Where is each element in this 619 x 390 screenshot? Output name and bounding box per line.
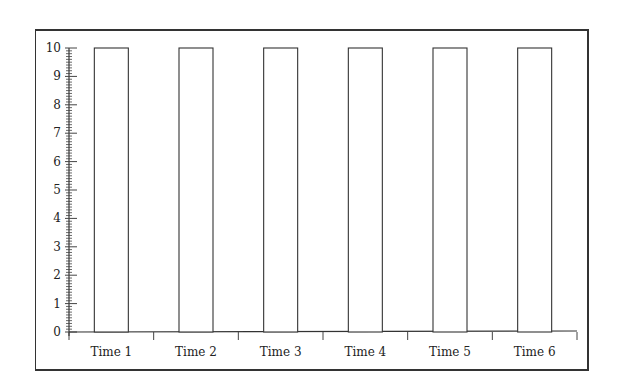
bars <box>94 48 551 332</box>
bar <box>94 48 128 332</box>
y-tick-label: 9 <box>53 69 61 83</box>
x-category-label: Time 3 <box>260 345 302 359</box>
x-category-label: Time 4 <box>344 345 386 359</box>
x-axis: Time 1Time 2Time 3Time 4Time 5Time 6 <box>69 331 577 359</box>
x-category-label: Time 5 <box>429 345 471 359</box>
bar <box>433 48 467 332</box>
y-tick-label: 6 <box>53 155 61 169</box>
x-category-label: Time 2 <box>175 345 217 359</box>
y-tick-label: 2 <box>53 268 61 282</box>
y-tick-label: 8 <box>53 98 61 112</box>
y-tick-label: 7 <box>53 126 61 140</box>
bar <box>179 48 213 332</box>
bar <box>264 48 298 332</box>
bar-chart: 012345678910 Time 1Time 2Time 3Time 4Tim… <box>0 0 619 390</box>
bar <box>348 48 382 332</box>
y-tick-label: 1 <box>53 297 61 311</box>
x-category-label: Time 1 <box>90 345 132 359</box>
y-tick-label: 4 <box>53 211 61 225</box>
y-tick-label: 10 <box>46 41 61 55</box>
y-tick-label: 0 <box>53 325 61 339</box>
y-tick-label: 3 <box>53 240 61 254</box>
x-category-label: Time 6 <box>514 345 556 359</box>
y-tick-label: 5 <box>53 183 61 197</box>
y-axis: 012345678910 <box>46 41 77 339</box>
bar <box>518 48 552 332</box>
